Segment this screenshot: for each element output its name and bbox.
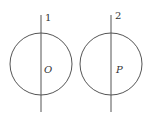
- line-label-2: 2: [115, 10, 121, 21]
- center-label-p: P: [115, 64, 123, 75]
- figure-2: 2 P: [80, 10, 142, 112]
- line-label-1: 1: [45, 12, 51, 23]
- diagram-canvas: 1 O 2 P: [0, 0, 152, 118]
- center-label-o: O: [44, 64, 52, 75]
- figure-1: 1 O: [10, 12, 72, 112]
